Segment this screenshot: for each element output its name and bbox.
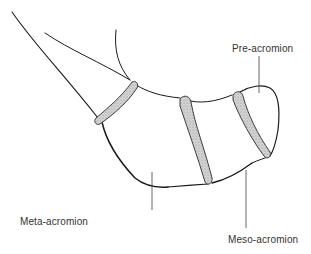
label-pre-acromion: Pre-acromion: [232, 43, 293, 54]
suture-band-1: [95, 81, 138, 124]
suture-band-2: [180, 96, 212, 184]
suture-band-3: [233, 92, 270, 158]
bone-outline-upper: [12, 12, 180, 118]
label-meso-acromion: Meso-acromion: [228, 234, 298, 245]
label-meta-acromion: Meta-acromion: [20, 216, 88, 227]
leader-lines: [152, 56, 259, 228]
